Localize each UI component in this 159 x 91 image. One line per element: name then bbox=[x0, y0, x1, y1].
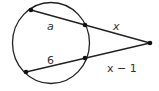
point-upper-near bbox=[83, 23, 88, 28]
label-a: a bbox=[47, 20, 54, 33]
point-lower-far bbox=[24, 70, 29, 75]
label-x-minus-1: x − 1 bbox=[107, 62, 137, 75]
point-upper-far bbox=[29, 8, 34, 13]
point-lower-near bbox=[83, 56, 88, 61]
point-external bbox=[148, 41, 153, 46]
label-6: 6 bbox=[47, 54, 54, 67]
secant-diagram: a x 6 x − 1 bbox=[0, 0, 159, 91]
label-x: x bbox=[112, 20, 120, 33]
